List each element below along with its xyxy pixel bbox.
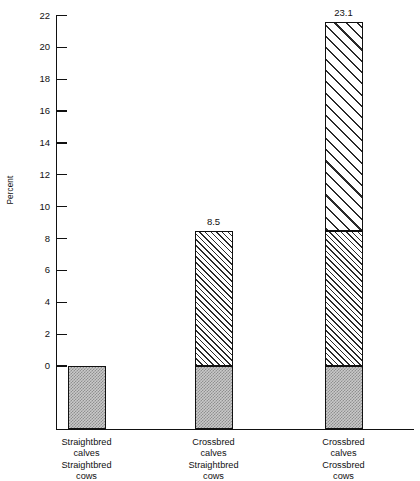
category-label-2-line-2: calves <box>159 448 269 459</box>
y-tick-label-16: 16 <box>26 106 50 116</box>
category-label-1-line-2: calves <box>32 448 142 459</box>
y-tick-label-12: 12 <box>26 170 50 180</box>
y-tick-10 <box>56 206 67 207</box>
category-label-1: StraightbredcalvesStraightbredcows <box>32 437 142 481</box>
y-tick-12 <box>56 174 67 175</box>
bar-3 <box>325 0 363 481</box>
bar-chart: Percent 0246810121416182022 8.523.1 Stra… <box>0 0 420 481</box>
y-tick-label-0: 0 <box>26 361 50 371</box>
bar-2-segment-base-block <box>195 366 233 429</box>
y-tick-0 <box>56 365 67 366</box>
category-label-2: CrossbredcalvesStraightbredcows <box>159 437 269 481</box>
y-tick-label-4: 4 <box>26 297 50 307</box>
category-label-2-line-3: Straightbred <box>159 460 269 471</box>
y-axis-title: Percent <box>7 160 15 220</box>
y-tick-18 <box>56 79 67 80</box>
y-tick-14 <box>56 142 67 143</box>
y-tick-20 <box>56 47 67 48</box>
y-tick-6 <box>56 270 67 271</box>
y-tick-label-22: 22 <box>26 11 50 21</box>
y-axis-line <box>56 15 57 430</box>
category-label-2-line-1: Crossbred <box>159 437 269 448</box>
category-label-3-line-2: calves <box>289 448 399 459</box>
y-tick-label-14: 14 <box>26 138 50 148</box>
category-label-3-line-3: Crossbred <box>289 460 399 471</box>
category-label-1-line-4: cows <box>32 471 142 481</box>
bar-1 <box>68 0 106 481</box>
bar-3-segment-individual-heterosis <box>325 231 363 366</box>
bar-1-segment-base-block <box>68 366 106 429</box>
y-tick-label-8: 8 <box>26 234 50 244</box>
category-label-1-line-3: Straightbred <box>32 460 142 471</box>
category-label-3-line-4: cows <box>289 471 399 481</box>
y-tick-2 <box>56 334 67 335</box>
y-tick-4 <box>56 302 67 303</box>
bar-3-segment-base-block <box>325 366 363 429</box>
y-tick-8 <box>56 238 67 239</box>
category-label-3-line-1: Crossbred <box>289 437 399 448</box>
y-tick-22 <box>56 15 67 16</box>
y-tick-16 <box>56 110 67 111</box>
y-tick-label-2: 2 <box>26 329 50 339</box>
bar-3-segment-maternal-heterosis <box>325 22 363 231</box>
category-label-1-line-1: Straightbred <box>32 437 142 448</box>
bar-2 <box>195 0 233 481</box>
bar-2-segment-individual-heterosis <box>195 231 233 366</box>
y-tick-label-10: 10 <box>26 202 50 212</box>
category-label-3: CrossbredcalvesCrossbredcows <box>289 437 399 481</box>
y-tick-label-6: 6 <box>26 265 50 275</box>
category-label-2-line-4: cows <box>159 471 269 481</box>
y-tick-label-18: 18 <box>26 74 50 84</box>
y-tick-label-20: 20 <box>26 42 50 52</box>
plot-area: Percent 0246810121416182022 8.523.1 Stra… <box>0 0 420 481</box>
